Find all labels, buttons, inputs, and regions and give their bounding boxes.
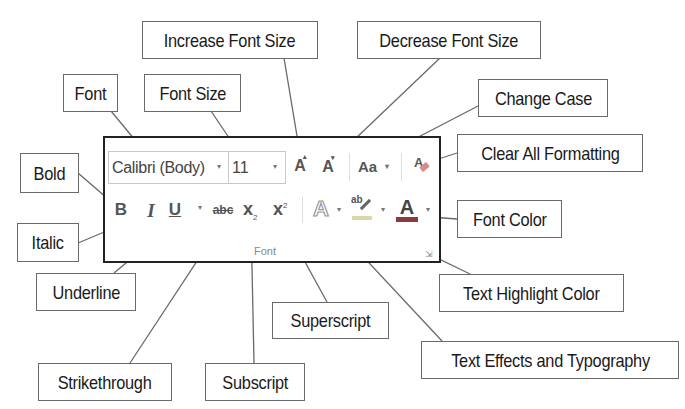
highlight-dropdown-icon[interactable]: ▾ xyxy=(381,205,385,214)
font-color-dropdown-icon[interactable]: ▾ xyxy=(426,205,430,214)
callout-italic: Italic xyxy=(17,223,79,262)
subscript-button[interactable]: x2 xyxy=(243,199,263,222)
increase-font-size-button[interactable]: A ▴ xyxy=(292,157,308,177)
callout-increase-font-size: Increase Font Size xyxy=(142,21,318,59)
font-color-button[interactable]: A xyxy=(396,196,418,222)
font-color-bar xyxy=(396,217,418,222)
font-size-value: 11 xyxy=(232,159,249,177)
callout-clear-all-formatting: Clear All Formatting xyxy=(457,134,643,172)
superscript-icon: x xyxy=(273,199,283,219)
strikethrough-icon: abc xyxy=(213,203,234,217)
underline-button[interactable]: U xyxy=(167,200,183,220)
callout-font-color: Font Color xyxy=(457,200,562,238)
subscript-icon: x xyxy=(243,199,253,219)
underline-icon: U xyxy=(169,200,181,219)
callout-bold: Bold xyxy=(20,153,79,193)
separator xyxy=(401,153,402,181)
separator xyxy=(349,153,350,181)
text-highlight-color-button[interactable]: ab xyxy=(351,194,373,220)
down-caret-icon: ▾ xyxy=(331,154,335,162)
highlight-color-bar xyxy=(352,216,372,220)
strikethrough-button[interactable]: abc xyxy=(211,203,235,217)
callout-superscript: Superscript xyxy=(272,302,389,339)
font-size-combobox[interactable]: 11 ▾ xyxy=(228,151,286,184)
callout-underline: Underline xyxy=(36,273,136,311)
change-case-dropdown-icon[interactable]: ▾ xyxy=(385,162,389,171)
font-name-dropdown-icon[interactable]: ▾ xyxy=(217,162,221,171)
font-name-combobox[interactable]: Calibri (Body) ▾ xyxy=(108,151,229,184)
font-size-dropdown-icon[interactable]: ▾ xyxy=(273,162,277,171)
decrease-font-size-button[interactable]: A ▾ xyxy=(320,158,336,178)
callout-decrease-font-size: Decrease Font Size xyxy=(357,21,541,59)
clear-all-formatting-button[interactable]: A xyxy=(414,155,432,177)
group-label: Font xyxy=(254,245,276,257)
callout-font-size: Font Size xyxy=(144,74,241,112)
change-case-icon: Aa xyxy=(358,158,377,175)
font-color-icon: A xyxy=(400,196,414,218)
separator xyxy=(302,197,303,223)
callout-text-highlight-color: Text Highlight Color xyxy=(439,274,624,312)
italic-button[interactable]: I xyxy=(143,200,159,222)
underline-dropdown-icon[interactable]: ▾ xyxy=(198,203,202,212)
text-effects-dropdown-icon[interactable]: ▾ xyxy=(337,205,341,214)
change-case-button[interactable]: Aa ▾ xyxy=(358,158,392,178)
up-caret-icon: ▴ xyxy=(303,153,307,161)
text-effects-icon: A xyxy=(313,196,329,221)
superscript-button[interactable]: x2 xyxy=(273,199,293,220)
callout-subscript: Subscript xyxy=(205,363,305,401)
text-effects-button[interactable]: A xyxy=(311,196,331,222)
bold-button[interactable]: B xyxy=(113,200,129,220)
font-name-value: Calibri (Body) xyxy=(112,159,205,177)
callout-font: Font xyxy=(63,74,118,112)
callout-text-effects: Text Effects and Typography xyxy=(421,341,679,379)
callout-strikethrough: Strikethrough xyxy=(38,363,172,401)
dialog-launcher-icon[interactable]: ⇲ xyxy=(425,249,433,259)
callout-change-case: Change Case xyxy=(478,79,608,117)
highlighter-icon: ab xyxy=(351,194,363,205)
